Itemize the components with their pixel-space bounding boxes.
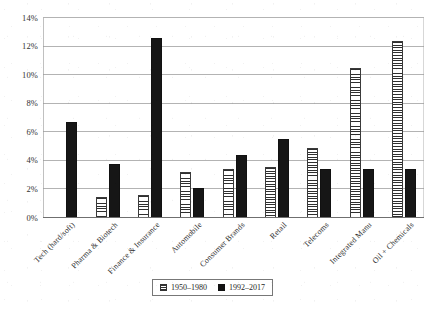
x-axis-line bbox=[43, 217, 424, 218]
solid-swatch-icon bbox=[218, 284, 225, 291]
bar bbox=[236, 155, 247, 218]
y-axis-tick-label: 0% bbox=[26, 214, 38, 223]
y-axis-tick-label: 6% bbox=[26, 128, 38, 137]
legend-label: 1950–1980 bbox=[171, 284, 207, 292]
bar-group bbox=[265, 18, 289, 218]
bar-group bbox=[223, 18, 247, 218]
bar bbox=[223, 169, 234, 218]
chart-legend: 1950–19801992–2017 bbox=[152, 279, 273, 296]
bars-layer bbox=[43, 18, 424, 218]
plot-area: 0%2%4%6%8%10%12%14% bbox=[43, 18, 424, 218]
bar bbox=[193, 188, 204, 218]
x-axis-tick-label: Telecoms bbox=[303, 221, 331, 249]
x-axis-tick-label: Automobile bbox=[170, 221, 204, 255]
bar-group bbox=[307, 18, 331, 218]
x-axis-tick-label-text: Telecoms bbox=[303, 221, 331, 249]
bar bbox=[151, 38, 162, 218]
x-axis-tick-label: Tech (hard/soft) bbox=[33, 221, 77, 265]
bar bbox=[109, 164, 120, 218]
x-axis-tick-label-text: Automobile bbox=[170, 221, 204, 255]
legend-item[interactable]: 1950–1980 bbox=[160, 284, 207, 292]
bar-chart: 0%2%4%6%8%10%12%14% Tech (hard/soft)Phar… bbox=[0, 0, 429, 311]
y-axis-tick-label: 10% bbox=[22, 71, 38, 80]
bar bbox=[180, 172, 191, 218]
x-axis-tick-label: Integrated Manu bbox=[328, 221, 373, 266]
x-axis-tick-label: Oil + Chemicals bbox=[371, 221, 415, 265]
bar bbox=[405, 169, 416, 218]
y-axis-tick-label: 4% bbox=[26, 157, 38, 166]
x-axis-tick-label-text: Tech (hard/soft) bbox=[33, 221, 77, 265]
bar-group bbox=[180, 18, 204, 218]
bar-group bbox=[392, 18, 416, 218]
legend-item[interactable]: 1992–2017 bbox=[218, 284, 265, 292]
bar-group bbox=[53, 18, 77, 218]
legend-label: 1992–2017 bbox=[229, 284, 265, 292]
x-axis-tick-label-text: Consumer Brands bbox=[198, 221, 246, 269]
bar bbox=[350, 68, 361, 218]
bar bbox=[66, 122, 77, 218]
bar-group bbox=[96, 18, 120, 218]
bar bbox=[265, 167, 276, 218]
bar bbox=[278, 139, 289, 218]
bar-group bbox=[350, 18, 374, 218]
y-axis-tick-label: 12% bbox=[22, 42, 38, 51]
bar bbox=[96, 197, 107, 218]
x-axis-tick-label: Retail bbox=[269, 221, 289, 241]
bar bbox=[138, 195, 149, 218]
y-axis-tick-label: 2% bbox=[26, 185, 38, 194]
hatched-swatch-icon bbox=[160, 284, 167, 291]
x-axis-tick-labels: Tech (hard/soft)Pharma & BiotechFinance … bbox=[43, 221, 424, 283]
x-axis-tick-label: Consumer Brands bbox=[198, 221, 246, 269]
bar bbox=[320, 169, 331, 218]
x-axis-tick-label-text: Integrated Manu bbox=[328, 221, 373, 266]
y-axis-tick-label: 8% bbox=[26, 99, 38, 108]
bar bbox=[307, 148, 318, 218]
bar-group bbox=[138, 18, 162, 218]
bar bbox=[392, 41, 403, 218]
x-axis-tick-label-text: Oil + Chemicals bbox=[371, 221, 415, 265]
bar bbox=[363, 169, 374, 218]
x-axis-tick-label-text: Retail bbox=[269, 221, 289, 241]
y-axis-tick-label: 14% bbox=[22, 14, 38, 23]
